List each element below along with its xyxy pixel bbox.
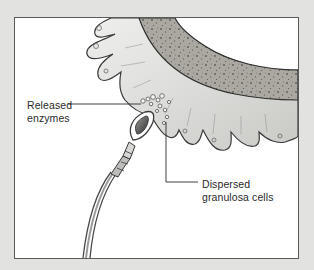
illustration-frame: Released enzymes Dispersed granulosa cel…	[14, 17, 299, 259]
label-dispersed-granulosa-cells: Dispersed granulosa cells	[202, 178, 274, 204]
label-line: enzymes	[27, 112, 72, 125]
sperm-head	[130, 111, 153, 140]
label-released-enzymes: Released enzymes	[27, 99, 72, 125]
sperm-midpiece	[111, 142, 135, 177]
label-line: Released	[27, 99, 72, 112]
sperm-egg-illustration	[15, 18, 298, 258]
label-line: granulosa cells	[202, 191, 274, 204]
sperm-tail	[83, 172, 116, 258]
label-line: Dispersed	[202, 178, 274, 191]
